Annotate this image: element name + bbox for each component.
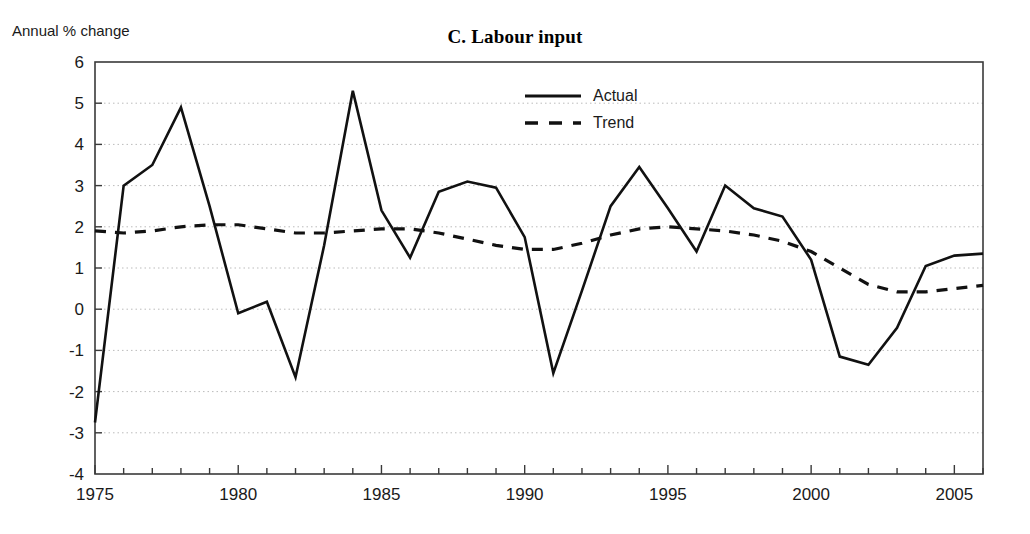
x-tick-label: 1975 (76, 485, 114, 504)
series-line-actual (95, 91, 983, 423)
x-tick-label: 2005 (935, 485, 973, 504)
y-tick-label: 6 (75, 53, 84, 72)
legend-label-trend: Trend (593, 114, 634, 131)
x-tick-label: 1995 (649, 485, 687, 504)
plot-frame (95, 62, 983, 474)
chart-legend: ActualTrend (525, 87, 637, 131)
y-axis-tick-labels: 6543210-1-2-3-4 (69, 53, 84, 484)
y-tick-label: -1 (69, 341, 84, 360)
plot-area: 6543210-1-2-3-4 197519801985199019952000… (0, 0, 1030, 534)
data-series (95, 91, 983, 423)
chart-figure: Annual % change C. Labour input 6543210-… (0, 0, 1030, 534)
legend-label-actual: Actual (593, 87, 637, 104)
y-tick-label: -3 (69, 424, 84, 443)
gridlines (95, 103, 983, 433)
y-tick-label: 4 (75, 135, 84, 154)
y-tick-label: 5 (75, 94, 84, 113)
x-tick-label: 1990 (506, 485, 544, 504)
y-tick-label: -2 (69, 383, 84, 402)
chart-title: C. Labour input (0, 26, 1030, 48)
x-axis-tick-labels: 1975198019851990199520002005 (76, 485, 973, 504)
y-tick-label: 0 (75, 300, 84, 319)
x-tick-label: 1985 (363, 485, 401, 504)
y-tick-label: -4 (69, 465, 84, 484)
y-tick-label: 2 (75, 218, 84, 237)
axis-frame (95, 62, 983, 474)
y-tick-label: 3 (75, 177, 84, 196)
x-tick-label: 2000 (792, 485, 830, 504)
y-tick-label: 1 (75, 259, 84, 278)
x-tick-label: 1980 (219, 485, 257, 504)
series-line-trend (95, 225, 983, 292)
x-axis-ticks (95, 465, 983, 474)
